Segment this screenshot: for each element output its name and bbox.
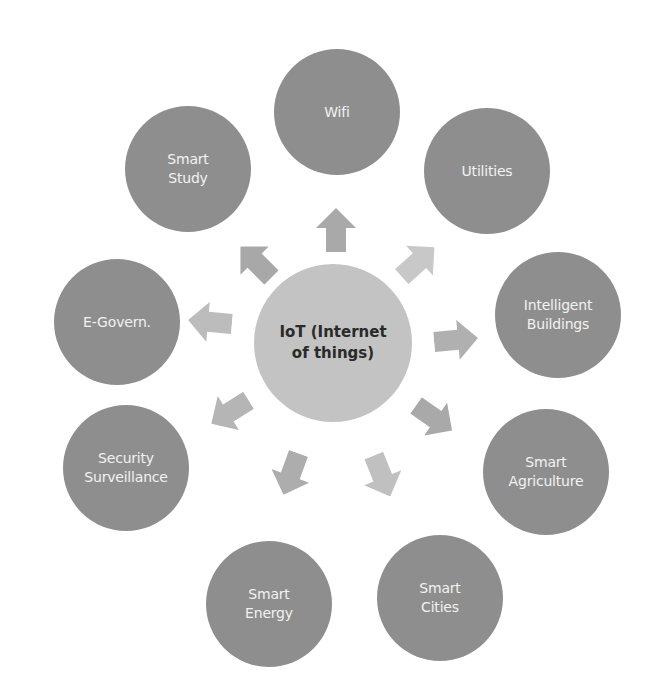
node-e-govern: E-Govern. xyxy=(54,259,180,385)
node-wifi: Wifi xyxy=(274,49,400,175)
node-security-surveillance: Security Surveillance xyxy=(63,405,189,531)
arrow-icon-to-smart-energy xyxy=(265,446,318,501)
arrow-icon-to-e-govern xyxy=(186,300,233,344)
node-label: Smart Study xyxy=(167,150,208,188)
node-label: Smart Agriculture xyxy=(509,453,584,491)
node-label: Wifi xyxy=(324,103,349,122)
node-label: Intelligent Buildings xyxy=(524,296,592,334)
arrow-icon-to-smart-agriculture xyxy=(405,389,464,447)
node-label: Utilities xyxy=(462,162,513,181)
node-smart-agriculture: Smart Agriculture xyxy=(483,409,609,535)
node-utilities: Utilities xyxy=(424,108,550,234)
node-label: Smart Cities xyxy=(419,579,460,617)
arrow-icon-to-smart-study xyxy=(226,232,285,291)
node-smart-study: Smart Study xyxy=(125,106,251,232)
arrow-icon-to-utilities xyxy=(388,232,447,291)
node-label: Security Surveillance xyxy=(84,449,167,487)
center-node-label: IoT (Internet of things) xyxy=(279,322,386,364)
node-label: E-Govern. xyxy=(83,313,151,332)
node-smart-cities: Smart Cities xyxy=(377,535,503,661)
node-label: Smart Energy xyxy=(245,585,293,623)
arrow-icon-to-intelligent-buildings xyxy=(432,318,479,362)
arrow-icon-to-security-surveillance xyxy=(201,383,260,440)
center-node-iot: IoT (Internet of things) xyxy=(254,264,412,422)
iot-diagram: WifiUtilitiesIntelligent BuildingsSmart … xyxy=(0,0,667,684)
arrow-icon-to-wifi xyxy=(316,208,356,252)
node-smart-energy: Smart Energy xyxy=(206,541,332,667)
arrow-icon-to-smart-cities xyxy=(355,448,409,504)
node-intelligent-buildings: Intelligent Buildings xyxy=(495,252,621,378)
